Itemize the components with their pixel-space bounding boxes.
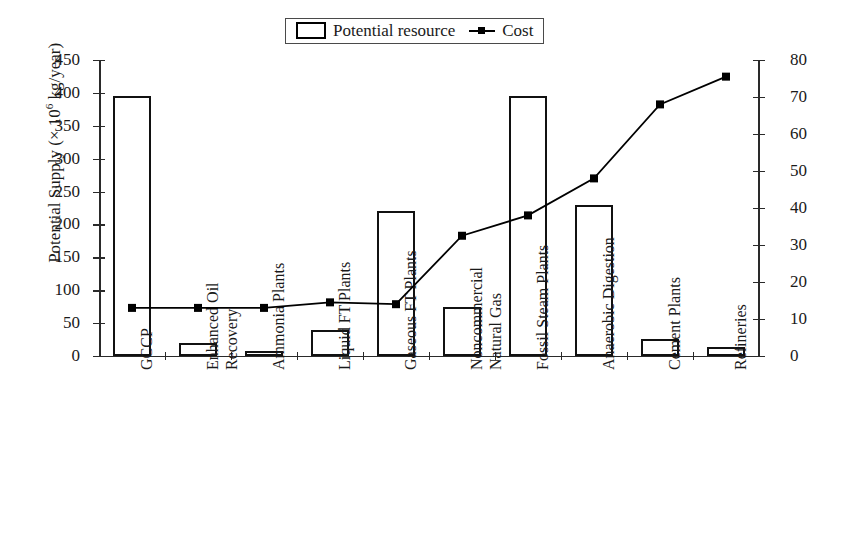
cost-marker <box>590 174 598 182</box>
x-axis-category-label-line1: Refineries <box>732 304 749 370</box>
x-axis-category-label-line1: Cement Plants <box>666 277 683 370</box>
x-axis-category-label: NoncommercialNatural Gas <box>468 267 506 370</box>
y-axis-left-tickmark <box>93 257 105 258</box>
y-axis-left-tick-label: 450 <box>55 50 81 70</box>
x-axis-category-label-line1: Fossil Steam Plants <box>534 245 551 370</box>
cost-marker <box>656 100 664 108</box>
y-axis-right-tickmark <box>753 356 765 357</box>
y-axis-right-tickmark <box>753 282 765 283</box>
x-axis-tickmark <box>561 352 562 360</box>
x-axis-category-label-line1: Ammonia Plants <box>270 263 287 370</box>
y-axis-left-tickmark <box>93 224 105 225</box>
x-axis-tickmark <box>429 352 430 360</box>
y-axis-left-tick-label: 200 <box>55 214 81 234</box>
chart-container: Potential resource Cost Potential Supply… <box>0 0 859 546</box>
x-axis-category-label-line1: Noncommercial <box>468 267 485 370</box>
y-axis-left-tickmark <box>93 93 105 94</box>
x-axis-category-label-line1: Enhanced Oil <box>204 282 221 370</box>
x-axis-category-label: Gaseous FT Plants <box>402 250 421 370</box>
x-axis-tickmark <box>363 352 364 360</box>
y-axis-right-tick-label: 40 <box>790 198 807 218</box>
y-axis-right-tick-label: 60 <box>790 124 807 144</box>
x-axis-category-label-line1: Gaseous FT Plants <box>402 250 419 370</box>
y-axis-left-line <box>99 60 101 357</box>
cost-marker <box>458 232 466 240</box>
y-axis-right-tickmark <box>753 319 765 320</box>
legend-label-potential-resource: Potential resource <box>333 22 455 39</box>
bar-swatch-icon <box>296 22 326 39</box>
y-axis-right-tick-label: 0 <box>790 346 799 366</box>
bar-gccp <box>113 96 151 356</box>
y-axis-right-tick-label: 30 <box>790 235 807 255</box>
x-axis-category-label-line2: Natural Gas <box>487 267 506 370</box>
y-axis-right-tickmark <box>753 134 765 135</box>
y-axis-left-tick-label: 350 <box>55 116 81 136</box>
x-axis-category-label: Cement Plants <box>666 277 685 370</box>
y-axis-left-tick-label: 250 <box>55 182 81 202</box>
y-axis-right-tickmark <box>753 60 765 61</box>
x-axis-tickmark <box>627 352 628 360</box>
y-axis-left-tickmark <box>93 126 105 127</box>
y-axis-left-tick-label: 150 <box>55 247 81 267</box>
cost-line-markers <box>128 73 730 312</box>
y-axis-left-tick-label: 0 <box>72 346 81 366</box>
x-axis-category-label-line2: Recovery <box>223 282 242 370</box>
y-axis-left-tick-labels: 450400350300250200150100500 <box>28 0 80 546</box>
x-axis-category-label: Enhanced OilRecovery <box>204 282 242 370</box>
legend-label-cost: Cost <box>502 22 533 39</box>
y-axis-left-tick-label: 100 <box>55 280 81 300</box>
y-axis-right-tick-label: 50 <box>790 161 807 181</box>
cost-line-path <box>132 77 726 308</box>
x-axis-tickmark <box>693 352 694 360</box>
y-axis-right-tickmark <box>753 97 765 98</box>
y-axis-left-tick-label: 400 <box>55 83 81 103</box>
chart-legend: Potential resource Cost <box>285 18 544 44</box>
x-axis-category-label: Liquid FT Plants <box>336 262 355 370</box>
y-axis-right-tick-label: 10 <box>790 309 807 329</box>
y-axis-left-tickmark <box>93 159 105 160</box>
y-axis-right-tick-label: 70 <box>790 87 807 107</box>
y-axis-right-tickmark <box>753 171 765 172</box>
legend-entry-potential-resource: Potential resource <box>296 22 455 39</box>
cost-marker <box>326 298 334 306</box>
x-axis-tickmark <box>165 352 166 360</box>
y-axis-left-tick-label: 300 <box>55 149 81 169</box>
y-axis-right-tickmark <box>753 208 765 209</box>
y-axis-left-tickmark <box>93 60 105 61</box>
y-axis-right-tick-label: 20 <box>790 272 807 292</box>
x-axis-category-label: Anaerobic Digestion <box>600 237 619 370</box>
y-axis-right-tick-label: 80 <box>790 50 807 70</box>
y-axis-left-tick-label: 50 <box>63 313 80 333</box>
x-axis-category-label: Ammonia Plants <box>270 263 289 370</box>
cost-marker <box>194 304 202 312</box>
y-axis-left-tickmark <box>93 356 105 357</box>
x-axis-category-label: Fossil Steam Plants <box>534 245 553 370</box>
cost-marker <box>722 73 730 81</box>
y-axis-left-tickmark <box>93 290 105 291</box>
line-marker-swatch-icon <box>469 24 495 37</box>
y-axis-left-tickmark <box>93 323 105 324</box>
x-axis-category-label-line1: Liquid FT Plants <box>336 262 353 370</box>
x-axis-category-label: GCCP <box>138 328 157 370</box>
x-axis-category-label: Refineries <box>732 304 751 370</box>
y-axis-left-tickmark <box>93 192 105 193</box>
x-axis-category-label-line1: Anaerobic Digestion <box>600 237 617 370</box>
y-axis-right-tickmark <box>753 245 765 246</box>
cost-marker <box>260 304 268 312</box>
x-axis-category-label-line1: GCCP <box>138 328 155 370</box>
legend-entry-cost: Cost <box>469 22 533 39</box>
x-axis-tickmark <box>297 352 298 360</box>
y-axis-right-tick-labels: 80706050403020100 <box>790 0 842 546</box>
